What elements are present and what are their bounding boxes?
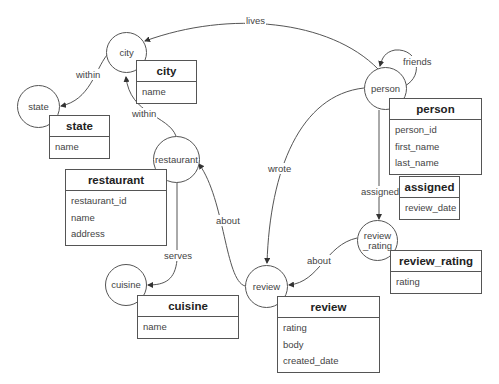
node-city-label: city — [119, 48, 133, 58]
table-person-field: last_name — [390, 155, 481, 172]
table-city-title: city — [137, 61, 196, 82]
edge-label-lives: lives — [245, 15, 266, 26]
node-person-label: person — [371, 84, 400, 94]
table-assigned[interactable]: assigned review_date — [399, 176, 460, 220]
table-review-field: created_date — [278, 353, 379, 370]
table-person[interactable]: person person_id first_name last_name — [389, 98, 482, 175]
table-cuisine-field: name — [138, 319, 238, 336]
table-state-field: name — [50, 139, 109, 156]
edge-label-assigned: assigned — [360, 186, 400, 197]
node-restaurant-label: restaurant — [155, 155, 198, 165]
edge-label-rating-review-about: about — [306, 255, 332, 266]
table-restaurant[interactable]: restaurant restaurant_id name address — [65, 169, 167, 246]
table-review-field: body — [278, 337, 379, 354]
table-review-rating[interactable]: review_rating rating — [390, 250, 482, 294]
table-review-field: rating — [278, 320, 379, 337]
table-cuisine[interactable]: cuisine name — [137, 295, 239, 339]
node-state-label: state — [28, 102, 49, 112]
table-city-field: name — [137, 84, 196, 101]
edge-label-friends: friends — [402, 56, 433, 67]
node-cuisine-label: cuisine — [111, 280, 141, 290]
table-restaurant-field: name — [66, 210, 166, 227]
table-restaurant-title: restaurant — [66, 170, 166, 191]
table-person-field: first_name — [390, 139, 481, 156]
table-state-title: state — [50, 116, 109, 137]
table-cuisine-title: cuisine — [138, 296, 238, 317]
table-review-rating-field: rating — [391, 274, 481, 291]
edge-label-city-state-within: within — [75, 69, 101, 80]
edge-wrote — [267, 88, 364, 263]
table-review-title: review — [278, 297, 379, 318]
edge-label-restaurant-city-within: within — [131, 108, 157, 119]
table-city[interactable]: city name — [136, 60, 197, 104]
table-restaurant-field: restaurant_id — [66, 193, 166, 210]
table-person-field: person_id — [390, 122, 481, 139]
edge-label-review-restaurant-about: about — [215, 215, 241, 226]
edge-label-wrote: wrote — [267, 163, 292, 174]
table-review[interactable]: review rating body created_date — [277, 296, 380, 373]
edge-city-state-within — [61, 55, 107, 106]
table-review-rating-title: review_rating — [391, 251, 481, 272]
table-person-title: person — [390, 99, 481, 120]
edge-label-serves: serves — [163, 250, 193, 261]
node-review-label: review — [253, 282, 280, 292]
node-review-rating-label: review _rating — [363, 231, 392, 251]
table-restaurant-field: address — [66, 226, 166, 243]
table-assigned-title: assigned — [400, 177, 459, 198]
table-state[interactable]: state name — [49, 115, 110, 159]
table-assigned-field: review_date — [400, 200, 459, 217]
